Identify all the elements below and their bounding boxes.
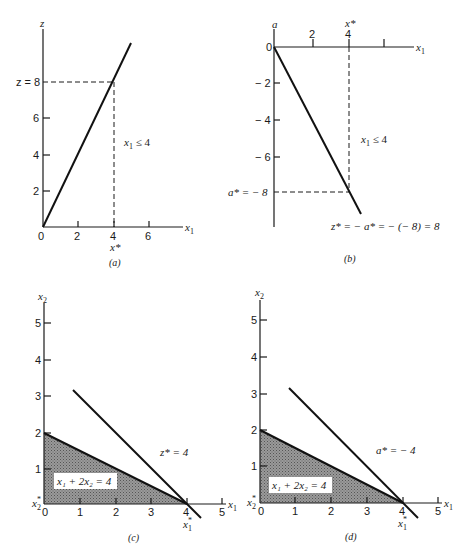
objective-line <box>43 43 131 227</box>
y-tick-label: 4 <box>35 354 41 366</box>
x-tick-label: 2 <box>74 230 80 242</box>
x-tick-label: 2 <box>328 505 334 517</box>
x2-axis-label: x2 <box>254 286 264 301</box>
x2-axis-label: x2 <box>37 290 47 305</box>
figure: z x1 0 2 4 6 2 4 6 z = 8 x1 ≤ 4 x* (a) a… <box>0 0 469 556</box>
constraint-box-label: x₁ + 2x₂ = 4 <box>56 475 112 487</box>
x1-axis-label: x1 <box>227 498 237 513</box>
relation-label: z* = − a* = − (− 8) = 8 <box>330 220 440 233</box>
y-tick-label: 5 <box>35 317 41 329</box>
y-tick-label: − 2 <box>255 77 271 89</box>
caption-c: (c) <box>128 532 140 544</box>
x-tick-label: 1 <box>292 505 298 517</box>
objective-line <box>274 47 361 214</box>
x-star-label: x* <box>344 17 356 29</box>
y-tick-label: 4 <box>251 351 257 363</box>
y-tick-label: 1 <box>251 460 257 472</box>
x2-star-label: x*2 <box>246 494 256 511</box>
constraint-box-label: x₁ + 2x₂ = 4 <box>271 479 327 491</box>
panel-b: a x1 2 4 x* 0 − 2 − 4 − 6 a* = − 8 x1 ≤ … <box>228 17 440 265</box>
caption-b: (b) <box>344 253 356 265</box>
optimum-a-label: a* = − 8 <box>228 186 268 198</box>
x1-star-label: x*1 <box>397 515 407 532</box>
x-tick-label: 2 <box>309 28 315 40</box>
x-tick-label: 0 <box>38 230 44 242</box>
caption-d: (d) <box>345 531 357 543</box>
x1-star-label: x*1 <box>182 516 192 533</box>
x2-star-label: x*2 <box>31 495 41 512</box>
y-tick-label: − 4 <box>255 114 271 126</box>
x-tick-label: 3 <box>364 505 370 517</box>
y-tick-label: 5 <box>251 314 257 326</box>
x-tick-label: 1 <box>77 506 83 518</box>
y-tick-label: 2 <box>35 427 41 439</box>
x-tick-label: 2 <box>113 506 119 518</box>
y-tick-label: 2 <box>251 424 257 436</box>
z-axis-label: z <box>39 17 45 29</box>
constraint-label: x1 ≤ 4 <box>360 133 387 148</box>
x-tick-label: 5 <box>435 505 441 517</box>
panel-c: x2 x1 0 1 2 3 4 5 1 2 3 4 5 x₁ + 2x₂ = 4… <box>31 290 237 544</box>
x-tick-label: 0 <box>258 505 264 517</box>
x-tick-label: 4 <box>345 28 351 40</box>
x-star-label: x* <box>109 241 121 253</box>
caption-a: (a) <box>109 257 121 269</box>
x1-axis-label: x1 <box>443 497 453 512</box>
y-tick-label: 6 <box>33 112 39 124</box>
y-tick-label: 3 <box>251 388 257 400</box>
optimum-z-label: z = 8 <box>16 76 40 88</box>
panel-a: z x1 0 2 4 6 2 4 6 z = 8 x1 ≤ 4 x* (a) <box>16 17 194 269</box>
a-axis-label: a <box>272 18 278 30</box>
constraint-label: x1 ≤ 4 <box>123 136 150 151</box>
objective-label: a* = − 4 <box>376 444 416 456</box>
x1-axis-label: x1 <box>415 41 425 56</box>
x-tick-label: 5 <box>219 506 225 518</box>
x1-axis-label: x1 <box>184 221 194 236</box>
y-tick-label: 2 <box>33 185 39 197</box>
x-tick-label: 6 <box>145 230 151 242</box>
x-tick-label: 3 <box>148 506 154 518</box>
y-tick-label: 0 <box>266 41 272 53</box>
x-tick-label: 0 <box>42 506 48 518</box>
y-tick-label: 4 <box>33 149 39 161</box>
y-tick-label: 3 <box>35 390 41 402</box>
panel-d: x2 x1 0 1 2 3 4 5 1 2 3 4 5 x₁ + 2x₂ = 4… <box>246 286 453 543</box>
y-tick-label: 1 <box>35 463 41 475</box>
objective-label: z* = 4 <box>159 446 189 458</box>
y-tick-label: − 6 <box>255 151 271 163</box>
